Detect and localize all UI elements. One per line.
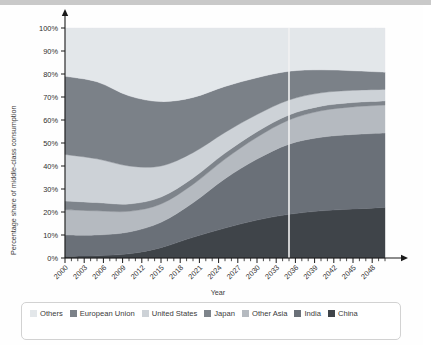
x-tick-label: 2042	[321, 263, 339, 281]
legend-item-european-union[interactable]: European Union	[70, 309, 135, 318]
y-tick-label: 20%	[43, 208, 58, 217]
legend-item-china[interactable]: China	[328, 309, 358, 318]
legend-swatch-icon	[242, 310, 249, 317]
legend-swatch-icon	[328, 310, 335, 317]
legend-label: European Union	[80, 309, 135, 318]
x-tick-label: 2003	[71, 263, 89, 281]
legend-item-india[interactable]: India	[294, 309, 320, 318]
y-tick-label: 0%	[47, 254, 58, 263]
chart-legend: OthersEuropean UnionUnited StatesJapanOt…	[21, 302, 401, 340]
chart-svg: 2000200320062009201220152018202120242027…	[0, 5, 423, 297]
x-tick-label: 2030	[244, 263, 262, 281]
legend-swatch-icon	[142, 310, 149, 317]
x-tick-label: 2015	[148, 263, 166, 281]
y-tick-label: 40%	[43, 162, 58, 171]
x-tick-label: 2048	[359, 263, 377, 281]
y-tick-label: 80%	[43, 70, 58, 79]
y-tick-label: 60%	[43, 116, 58, 125]
y-tick-label: 70%	[43, 93, 58, 102]
x-tick-label: 2021	[186, 263, 204, 281]
x-tick-label: 2000	[52, 263, 70, 281]
legend-item-united-states[interactable]: United States	[142, 309, 198, 318]
y-axis-title: Percentage share of middle-class consump…	[9, 106, 18, 255]
legend-swatch-icon	[294, 310, 301, 317]
stacked-area-chart: 2000200320062009201220152018202120242027…	[0, 5, 423, 297]
x-tick-label: 2009	[110, 263, 128, 281]
x-tick-label: 2045	[340, 263, 358, 281]
legend-swatch-icon	[70, 310, 77, 317]
x-tick-label: 2039	[302, 263, 320, 281]
x-tick-group: 2000200320062009201220152018202120242027…	[52, 258, 385, 281]
legend-label: Others	[40, 309, 63, 318]
y-tick-group: 0%10%20%30%40%50%60%70%80%90%100%	[39, 24, 65, 263]
legend-label: Other Asia	[252, 309, 287, 318]
x-tick-label: 2006	[90, 263, 108, 281]
x-tick-label: 2012	[129, 263, 147, 281]
y-axis-arrow-icon	[62, 9, 68, 16]
y-tick-label: 100%	[39, 24, 58, 33]
x-axis-arrow-icon	[401, 255, 408, 261]
x-tick-label: 2036	[282, 263, 300, 281]
y-tick-label: 10%	[43, 231, 58, 240]
x-tick-label: 2027	[225, 263, 243, 281]
legend-swatch-icon	[30, 310, 37, 317]
legend-item-others[interactable]: Others	[30, 309, 63, 318]
x-tick-label: 2018	[167, 263, 185, 281]
chart-page: 2000200320062009201220152018202120242027…	[0, 5, 423, 345]
legend-swatch-icon	[204, 310, 211, 317]
x-tick-label: 2024	[206, 263, 224, 281]
area-series-group	[65, 28, 385, 258]
y-tick-label: 50%	[43, 139, 58, 148]
legend-item-japan[interactable]: Japan	[204, 309, 235, 318]
y-tick-label: 30%	[43, 185, 58, 194]
legend-label: United States	[152, 309, 198, 318]
x-tick-label: 2033	[263, 263, 281, 281]
y-tick-label: 90%	[43, 47, 58, 56]
legend-label: Japan	[214, 309, 235, 318]
legend-label: India	[304, 309, 320, 318]
x-axis-title: Year	[211, 288, 226, 297]
legend-label: China	[338, 309, 358, 318]
legend-item-other-asia[interactable]: Other Asia	[242, 309, 287, 318]
